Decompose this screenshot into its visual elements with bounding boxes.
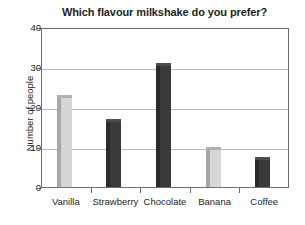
x-tick-label-coffee: Coffee xyxy=(239,196,289,207)
x-tick-mark xyxy=(190,188,191,193)
bar-cap xyxy=(255,157,270,160)
bar-edge xyxy=(57,95,61,187)
bar-strawberry xyxy=(106,119,121,187)
bar-vanilla xyxy=(57,95,72,187)
x-tick-mark xyxy=(91,188,92,193)
y-axis: 010203040 xyxy=(0,0,41,225)
bar-chart: Which flavour milkshake do you prefer? N… xyxy=(0,0,305,225)
x-tick-mark xyxy=(140,188,141,193)
y-tick-label: 20 xyxy=(9,103,41,113)
x-tick-label-vanilla: Vanilla xyxy=(41,196,91,207)
x-tick-mark xyxy=(239,188,240,193)
bar-cap xyxy=(106,119,121,122)
y-tick-label: 10 xyxy=(9,143,41,153)
x-tick-label-strawberry: Strawberry xyxy=(91,196,141,207)
bar-chocolate xyxy=(156,63,171,187)
bar-cap xyxy=(57,95,72,98)
bar-edge xyxy=(106,119,110,187)
x-tick-label-chocolate: Chocolate xyxy=(140,196,190,207)
x-tick-label-banana: Banana xyxy=(190,196,240,207)
bar-coffee xyxy=(255,157,270,187)
chart-title: Which flavour milkshake do you prefer? xyxy=(40,6,289,18)
y-tick-label: 0 xyxy=(9,183,41,193)
plot-area xyxy=(41,28,289,188)
bar-cap xyxy=(156,63,171,66)
bar-edge xyxy=(156,63,160,187)
y-tick-label: 40 xyxy=(9,23,41,33)
bar-banana xyxy=(206,147,221,187)
y-tick-label: 30 xyxy=(9,63,41,73)
bar-edge xyxy=(206,147,210,187)
bar-cap xyxy=(206,147,221,150)
bar-edge xyxy=(255,157,259,187)
